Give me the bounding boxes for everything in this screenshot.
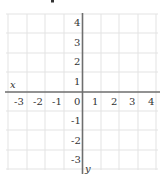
y-tick-label: -2 [71,135,81,146]
x-tick-label: 3 [129,96,135,107]
x-tick-label: 2 [111,96,117,107]
y-tick-label: 4 [74,17,80,28]
y-tick-label: 3 [74,37,80,48]
y-tick-labels: 4 3 2 1 -1 -2 -3 [71,17,81,165]
y-tick-label: 1 [74,76,80,87]
x-tick-label: -3 [14,96,24,107]
y-tick-label: -3 [71,154,81,165]
coordinate-plane: x y -3 -2 -1 0 1 2 3 4 4 3 2 1 -1 -2 -3 [0,0,162,181]
cropped-glyph-fragment [51,0,54,3]
x-axis-label: x [10,79,16,90]
origin-label: 0 [74,96,80,107]
x-tick-label: -2 [33,96,43,107]
x-tick-label: 4 [148,96,154,107]
y-axis-label: y [84,163,91,174]
y-tick-label: 2 [74,56,80,67]
y-tick-label: -1 [71,115,81,126]
x-tick-label: -1 [52,96,62,107]
x-tick-labels: -3 -2 -1 0 1 2 3 4 [14,96,154,107]
x-tick-label: 1 [92,96,98,107]
